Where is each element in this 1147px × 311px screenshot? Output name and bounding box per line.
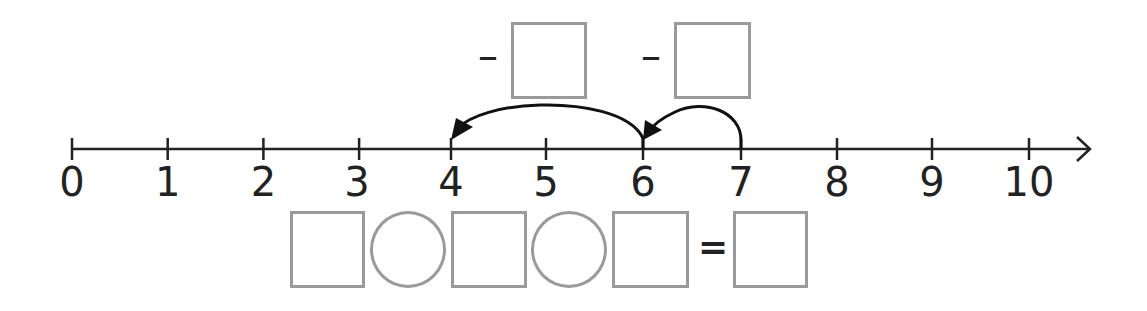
tick-label: 3: [327, 160, 387, 204]
jump-arc-7-to-6: [648, 107, 741, 149]
minus-sign: –: [637, 36, 665, 76]
tick-label: 7: [711, 160, 771, 204]
minus-sign: –: [474, 36, 502, 76]
equation-result-box[interactable]: [733, 211, 808, 288]
equation-operator-circle-1[interactable]: [370, 211, 446, 288]
equation-operator-circle-2[interactable]: [531, 211, 607, 288]
tick-label: 5: [516, 160, 576, 204]
tick-label: 8: [807, 160, 867, 204]
equation-number-box-3[interactable]: [612, 211, 689, 288]
tick-label: 4: [421, 160, 481, 204]
jump-arc-6-to-4: [458, 105, 643, 149]
tick-label: 0: [42, 160, 102, 204]
tick-label: 9: [902, 160, 962, 204]
jump-answer-box-2[interactable]: [674, 22, 751, 99]
tick-label: 1: [138, 160, 198, 204]
number-line-worksheet: 0 1 2 3 4 5 6 7 8 9 10 – –: [0, 0, 1147, 311]
jump-answer-box-1[interactable]: [511, 22, 587, 99]
tick-label: 2: [233, 160, 293, 204]
tick-label: 6: [613, 160, 673, 204]
equals-sign: =: [698, 229, 724, 265]
equation-number-box-1[interactable]: [290, 211, 365, 288]
equation-number-box-2[interactable]: [451, 211, 527, 288]
tick-label: 10: [999, 160, 1059, 204]
